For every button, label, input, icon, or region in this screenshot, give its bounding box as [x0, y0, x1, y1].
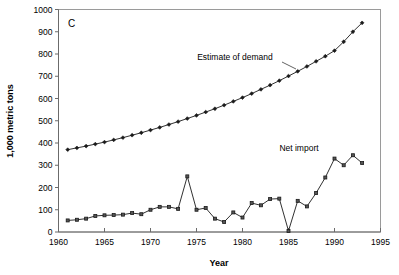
x-tick-label: 1970: [141, 237, 160, 247]
data-point: [232, 211, 235, 214]
x-tick-label: 1960: [49, 237, 68, 247]
data-point: [121, 213, 124, 216]
data-point: [149, 208, 152, 211]
y-tick-label: 700: [38, 71, 52, 81]
x-tick-label: 1980: [233, 237, 252, 247]
data-point: [351, 154, 354, 157]
chart-figure: 01002003004005006007008009001000 1960196…: [0, 0, 399, 275]
data-point: [140, 213, 143, 216]
data-point: [204, 206, 207, 209]
y-tick-label: 800: [38, 49, 52, 59]
data-point: [342, 164, 345, 167]
y-tick-label: 500: [38, 116, 52, 126]
y-tick-label: 0: [48, 227, 53, 237]
data-point: [324, 176, 327, 179]
y-tick-label: 900: [38, 27, 52, 37]
data-point: [66, 219, 69, 222]
y-tick-label: 1000: [34, 5, 53, 15]
data-point: [177, 207, 180, 210]
data-point: [361, 162, 364, 165]
x-tick-label: 1985: [279, 237, 298, 247]
x-tick-label: 1990: [325, 237, 344, 247]
chart-svg: 01002003004005006007008009001000 1960196…: [0, 0, 399, 275]
import-series-label: Net import: [279, 143, 319, 153]
data-point: [167, 205, 170, 208]
data-point: [75, 218, 78, 221]
y-tick-label: 100: [38, 205, 52, 215]
chart-background: [0, 0, 399, 275]
data-point: [85, 217, 88, 220]
y-axis-title: 1,000 metric tons: [5, 84, 15, 158]
data-point: [186, 175, 189, 178]
data-point: [305, 205, 308, 208]
data-point: [287, 229, 290, 232]
data-point: [131, 212, 134, 215]
data-point: [241, 216, 244, 219]
y-tick-label: 600: [38, 94, 52, 104]
data-point: [223, 220, 226, 223]
data-point: [94, 214, 97, 217]
data-point: [213, 217, 216, 220]
data-point: [250, 202, 253, 205]
y-tick-label: 400: [38, 138, 52, 148]
data-point: [195, 208, 198, 211]
demand-series-label: Estimate of demand: [197, 52, 273, 62]
x-tick-label: 1975: [187, 237, 206, 247]
data-point: [296, 199, 299, 202]
data-point: [103, 214, 106, 217]
x-axis-title: Year: [209, 258, 229, 268]
data-point: [333, 157, 336, 160]
data-point: [315, 192, 318, 195]
data-point: [278, 197, 281, 200]
panel-label: C: [68, 18, 75, 29]
data-point: [112, 214, 115, 217]
y-tick-label: 300: [38, 160, 52, 170]
x-tick-label: 1965: [95, 237, 114, 247]
y-tick-label: 200: [38, 183, 52, 193]
data-point: [259, 204, 262, 207]
x-tick-label: 1995: [371, 237, 390, 247]
data-point: [269, 198, 272, 201]
data-point: [158, 205, 161, 208]
